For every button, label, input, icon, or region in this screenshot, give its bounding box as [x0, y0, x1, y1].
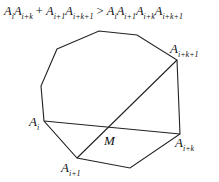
vertex-label-Ai-plus-k: Ai+k: [175, 135, 194, 153]
diagonal-Ai+1-Ai+k+1: [77, 60, 177, 158]
vertex-label-Ai: Ai: [29, 114, 39, 132]
vertex-label-Ai-plus-1: Ai+1: [61, 160, 81, 178]
vertex-label-Ai-plus-k-plus-1: Ai+k+1: [170, 41, 199, 59]
octagon-diagram: [0, 0, 219, 182]
vertex-label-M: M: [104, 133, 115, 149]
